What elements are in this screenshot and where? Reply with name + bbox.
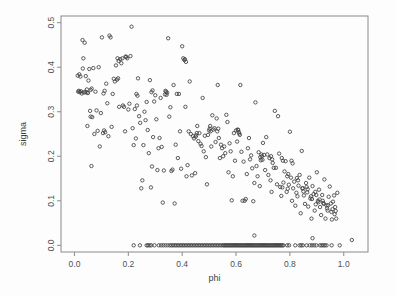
data-point	[81, 67, 84, 70]
data-point	[179, 167, 182, 170]
data-point	[270, 190, 273, 193]
data-point	[145, 100, 148, 103]
data-point	[327, 195, 330, 198]
data-point	[130, 25, 133, 28]
y-axis-title: sigma	[18, 122, 28, 146]
data-point	[281, 186, 284, 189]
data-point	[176, 156, 179, 159]
data-point	[128, 102, 131, 105]
x-tick-label: 0.8	[284, 259, 296, 269]
data-point	[131, 127, 134, 130]
data-point	[162, 169, 165, 172]
data-point	[302, 194, 305, 197]
data-point	[107, 135, 110, 138]
data-point	[168, 115, 171, 118]
data-point	[206, 133, 209, 136]
data-point	[300, 149, 303, 152]
data-point	[134, 137, 137, 140]
data-point	[211, 114, 214, 117]
y-tick-label: 0.2	[46, 150, 56, 162]
x-tick-label: 1.0	[338, 259, 350, 269]
data-point	[161, 201, 164, 204]
data-point	[83, 41, 86, 44]
data-point	[256, 175, 259, 178]
data-points-layer	[76, 25, 354, 247]
data-point	[248, 158, 251, 161]
data-point	[185, 175, 188, 178]
data-point	[323, 178, 326, 181]
data-point	[152, 100, 155, 103]
data-point	[174, 143, 177, 146]
data-point	[290, 199, 293, 202]
data-point	[190, 174, 193, 177]
data-point	[246, 147, 249, 150]
data-point	[135, 104, 138, 107]
data-point	[240, 150, 243, 153]
data-point	[92, 66, 95, 69]
data-point	[275, 183, 278, 186]
data-point	[335, 217, 338, 220]
data-point	[216, 83, 219, 86]
data-point	[215, 117, 218, 120]
data-point	[155, 118, 158, 121]
data-point	[100, 36, 103, 39]
data-point	[87, 79, 90, 82]
data-point	[289, 176, 292, 179]
data-point	[227, 171, 230, 174]
data-point	[217, 136, 220, 139]
data-point	[308, 176, 311, 179]
data-point	[252, 200, 255, 203]
data-point	[315, 171, 318, 174]
data-point	[96, 129, 99, 132]
data-point	[140, 187, 143, 190]
y-tick-label: 0.3	[46, 106, 56, 118]
data-point	[178, 130, 181, 133]
data-point	[225, 113, 228, 116]
data-point	[144, 119, 147, 122]
data-point	[138, 121, 141, 124]
data-point	[311, 184, 314, 187]
data-point	[296, 195, 299, 198]
data-point	[82, 57, 85, 60]
data-point	[186, 163, 189, 166]
data-point	[151, 135, 154, 138]
y-tick-label: 0.5	[46, 17, 56, 29]
x-tick-label: 0.4	[176, 259, 188, 269]
data-point	[298, 173, 301, 176]
data-point	[84, 74, 87, 77]
data-point	[288, 130, 291, 133]
data-point	[338, 244, 341, 247]
data-point	[188, 80, 191, 83]
data-point	[202, 150, 205, 153]
data-point	[286, 187, 289, 190]
data-point	[249, 154, 252, 157]
axis-ticks	[57, 23, 344, 256]
data-point	[271, 161, 274, 164]
data-point	[129, 54, 132, 57]
data-point	[158, 136, 161, 139]
data-point	[235, 140, 238, 143]
data-point	[276, 114, 279, 117]
x-tick-label: 0.6	[230, 259, 242, 269]
data-point	[193, 171, 196, 174]
data-point	[330, 244, 333, 247]
data-point	[117, 105, 120, 108]
data-point	[172, 83, 175, 86]
data-point	[350, 238, 353, 241]
data-point	[283, 170, 286, 173]
data-point	[328, 185, 331, 188]
data-point	[94, 90, 97, 93]
data-point	[233, 159, 236, 162]
data-point	[313, 209, 316, 212]
data-point	[88, 67, 91, 70]
data-point	[295, 191, 298, 194]
data-point	[263, 168, 266, 171]
data-point	[282, 181, 285, 184]
data-point	[330, 218, 333, 221]
data-point	[143, 110, 146, 113]
data-point	[318, 205, 321, 208]
data-point	[97, 66, 100, 69]
data-point	[255, 164, 258, 167]
data-point	[307, 205, 310, 208]
plot-canvas: 0.00.20.40.60.81.00.00.10.20.30.40.5phis…	[0, 0, 396, 296]
